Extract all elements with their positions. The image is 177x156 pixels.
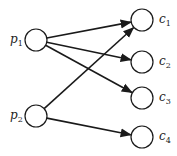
node-label-c3: c3 [159,90,171,106]
node-label-p2: p2 [10,108,23,124]
node-label-p1: p1 [10,32,23,48]
edges-group [44,22,133,135]
node-circle-c2 [131,51,153,73]
edge-p1-to-c2 [47,42,131,59]
node-p2: p2 [10,105,47,127]
node-circle-c3 [131,87,153,109]
node-c3: c3 [131,87,171,109]
node-c2: c2 [131,51,171,73]
edge-p2-to-c1 [44,28,133,109]
bipartite-graph: p1p2c1c2c3c4 [0,0,177,156]
edge-p2-to-c4 [47,118,131,135]
diagram-canvas: p1p2c1c2c3c4 [0,0,177,156]
node-c4: c4 [131,126,171,148]
node-p1: p1 [10,29,47,51]
node-circle-p1 [25,29,47,51]
node-label-c1: c1 [159,12,171,28]
edge-p1-to-c1 [47,22,131,38]
node-label-c4: c4 [159,129,171,145]
node-circle-c1 [131,9,153,31]
node-circle-p2 [25,105,47,127]
node-c1: c1 [131,9,171,31]
node-label-c2: c2 [159,54,171,70]
node-circle-c4 [131,126,153,148]
